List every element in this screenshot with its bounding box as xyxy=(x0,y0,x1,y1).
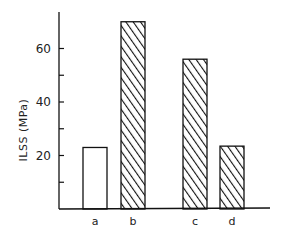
category-label-d: d xyxy=(229,215,236,228)
bars-group xyxy=(83,22,244,209)
category-label-a: a xyxy=(92,215,99,228)
category-label-c: c xyxy=(192,215,198,228)
bar-b xyxy=(121,22,145,209)
bar-d xyxy=(220,146,244,209)
y-tick-label: 20 xyxy=(36,149,51,163)
y-tick-label: 60 xyxy=(36,42,51,56)
bar-a xyxy=(83,147,107,209)
y-tick-label: 40 xyxy=(36,95,51,109)
y-axis-title: ILSS (MPa) xyxy=(17,99,30,162)
bar-c xyxy=(183,59,207,209)
category-label-b: b xyxy=(130,215,137,228)
bar-chart: 204060abcd ILSS (MPa) xyxy=(0,0,281,230)
